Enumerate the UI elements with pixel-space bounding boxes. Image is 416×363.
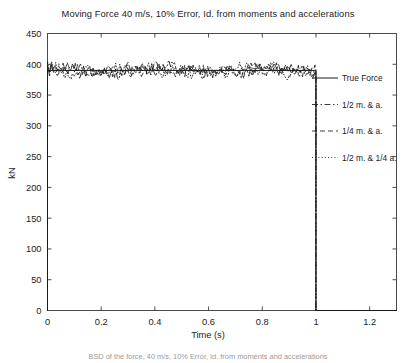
y-tick-label: 0 bbox=[36, 306, 41, 316]
figure-container: Moving Force 40 m/s, 10% Error, Id. from… bbox=[0, 0, 416, 363]
data-series-layer bbox=[48, 61, 397, 310]
x-tick-label: 0.4 bbox=[148, 317, 161, 327]
legend-label: 1/2 m. & a. bbox=[342, 100, 383, 110]
y-tick-label: 200 bbox=[26, 183, 42, 193]
x-tick-label: 0.2 bbox=[95, 317, 108, 327]
chart-legend: True Force1/2 m. & a.1/4 m. & a.1/2 m. &… bbox=[312, 73, 396, 163]
x-tick-label: 1 bbox=[313, 317, 318, 327]
legend-label: True Force bbox=[342, 73, 383, 83]
series-line bbox=[48, 61, 397, 310]
y-tick-label: 250 bbox=[26, 152, 42, 162]
chart-title: Moving Force 40 m/s, 10% Error, Id. from… bbox=[0, 9, 416, 19]
y-tick-label: 150 bbox=[26, 214, 42, 224]
y-axis-label: kN bbox=[7, 153, 17, 193]
y-tick-label: 300 bbox=[26, 121, 42, 131]
legend-label: 1/2 m. & 1/4 a. bbox=[342, 153, 396, 163]
x-tick-label: 0.8 bbox=[256, 317, 269, 327]
x-axis-ticks: 00.20.40.60.811.2 bbox=[45, 34, 376, 327]
y-tick-label: 350 bbox=[26, 90, 42, 100]
x-axis-label: Time (s) bbox=[0, 330, 416, 340]
figure-caption: BSD of the force, 40 m/s, 10% Error, Id.… bbox=[0, 352, 416, 361]
legend-label: 1/4 m. & a. bbox=[342, 126, 383, 136]
x-tick-label: 0.6 bbox=[202, 317, 215, 327]
y-tick-label: 400 bbox=[26, 60, 42, 70]
chart-plot-area: 050100150200250300350400450 00.20.40.60.… bbox=[0, 0, 416, 363]
x-tick-label: 1.2 bbox=[363, 317, 376, 327]
y-tick-label: 50 bbox=[31, 275, 41, 285]
y-tick-label: 450 bbox=[26, 29, 42, 39]
x-tick-label: 0 bbox=[45, 317, 50, 327]
y-tick-label: 100 bbox=[26, 244, 42, 254]
series-line bbox=[48, 61, 397, 310]
